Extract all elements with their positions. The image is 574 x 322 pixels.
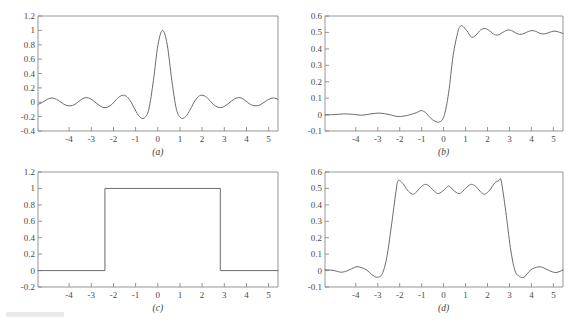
x-tick-label: 4: [244, 134, 249, 144]
y-tick-label: -0.2: [21, 282, 35, 292]
y-tick-label: 1.2: [24, 11, 35, 21]
x-tick-label: -2: [110, 290, 118, 300]
x-tick-label: 5: [551, 290, 556, 300]
x-tick-label: 3: [222, 134, 227, 144]
y-ticks-b: [325, 16, 329, 131]
y-tick-label: 0.3: [311, 60, 323, 70]
y-tick-label: 0.6: [24, 216, 36, 226]
x-tick-label: 5: [266, 134, 271, 144]
x-tick-labels-b: -4 -3 -2 -1 0 1 2 3 4 5: [352, 134, 556, 144]
y-tick-label: 0.2: [311, 233, 322, 243]
x-tick-label: 1: [463, 134, 468, 144]
x-tick-label: 5: [266, 290, 271, 300]
figure-container: -0.4 -0.2 0 0.2 0.4 0.6 0.8 1 1.2 -4 -3 …: [0, 0, 574, 322]
x-tick-label: 3: [507, 134, 512, 144]
x-tick-label: 0: [441, 290, 446, 300]
y-tick-label: 0.1: [311, 93, 322, 103]
plot-panel-a: -0.4 -0.2 0 0.2 0.4 0.6 0.8 1 1.2 -4 -3 …: [0, 0, 287, 161]
y-tick-labels-c: -0.2 0 0.2 0.4 0.6 0.8 1 1.2: [21, 167, 36, 292]
data-curve-b: [325, 26, 563, 123]
panel-caption-c: (c): [153, 303, 164, 314]
y-tick-label: 0.5: [311, 183, 323, 193]
x-tick-label: 1: [178, 290, 183, 300]
plot-svg-a: -0.4 -0.2 0 0.2 0.4 0.6 0.8 1 1.2 -4 -3 …: [0, 0, 287, 161]
y-tick-label: 0.4: [24, 233, 36, 243]
x-tick-label: -4: [352, 290, 360, 300]
axes-b: [325, 16, 563, 131]
plot-panel-b: -0.1 0 0.1 0.2 0.3 0.4 0.5 0.6 -4 -3 -2 …: [287, 0, 574, 161]
x-tick-label: 0: [156, 134, 161, 144]
y-tick-label: 0.6: [24, 54, 36, 64]
x-tick-label: 4: [529, 290, 534, 300]
y-tick-label: 0: [31, 97, 36, 107]
axes-a: [38, 16, 278, 131]
x-tick-label: -4: [65, 134, 73, 144]
y-tick-label: 0.4: [311, 200, 323, 210]
y-tick-label: 0.2: [24, 249, 35, 259]
x-ticks-a: [69, 127, 269, 131]
y-tick-label: 0: [318, 110, 323, 120]
x-tick-label: -1: [418, 290, 426, 300]
y-ticks-c: [38, 172, 42, 287]
plot-panel-d: -0.1 0 0.1 0.2 0.3 0.4 0.5 0.6 -4 -3 -2 …: [287, 161, 574, 322]
y-tick-label: 0.4: [311, 44, 323, 54]
x-tick-label: 0: [441, 134, 446, 144]
y-tick-label: -0.4: [21, 126, 36, 136]
axis-frame-d: [325, 172, 563, 287]
x-tick-label: -2: [110, 134, 118, 144]
x-tick-label: 3: [222, 290, 227, 300]
plot-svg-b: -0.1 0 0.1 0.2 0.3 0.4 0.5 0.6 -4 -3 -2 …: [287, 0, 574, 161]
x-tick-label: 2: [200, 134, 205, 144]
plot-svg-c: -0.2 0 0.2 0.4 0.6 0.8 1 1.2 -4 -3 -2 -1…: [0, 161, 287, 322]
data-curve-a: [38, 30, 278, 118]
y-tick-label: 1: [31, 183, 36, 193]
y-tick-label: 0.2: [24, 83, 35, 93]
panel-caption-b: (b): [438, 147, 449, 158]
y-tick-label: -0.2: [21, 112, 35, 122]
y-tick-labels-d: -0.1 0 0.1 0.2 0.3 0.4 0.5 0.6: [308, 167, 323, 292]
y-tick-label: 0: [318, 266, 323, 276]
x-tick-labels-a: -4 -3 -2 -1 0 1 2 3 4 5: [65, 134, 271, 144]
plot-panel-c: -0.2 0 0.2 0.4 0.6 0.8 1 1.2 -4 -3 -2 -1…: [0, 161, 287, 322]
x-tick-label: 5: [551, 134, 556, 144]
y-tick-label: 1: [31, 25, 36, 35]
x-tick-labels-d: -4 -3 -2 -1 0 1 2 3 4 5: [352, 290, 556, 300]
y-tick-label: 0: [31, 266, 36, 276]
y-tick-label: -0.1: [308, 126, 322, 136]
axis-frame-b: [325, 16, 563, 131]
y-tick-label: 0.3: [311, 216, 323, 226]
axes-c: [38, 172, 278, 287]
x-tick-label: 4: [529, 134, 534, 144]
y-tick-label: 0.1: [311, 249, 322, 259]
y-tick-label: 0.8: [24, 200, 36, 210]
y-tick-label: 0.6: [311, 167, 323, 177]
x-tick-label: -1: [132, 134, 140, 144]
x-tick-label: -1: [418, 134, 426, 144]
y-tick-label: 0.2: [311, 77, 322, 87]
axis-frame-a: [38, 16, 278, 131]
y-tick-labels-a: -0.4 -0.2 0 0.2 0.4 0.6 0.8 1 1.2: [21, 11, 36, 136]
x-tick-label: -2: [396, 134, 404, 144]
x-tick-label: -4: [65, 290, 73, 300]
x-tick-label: 3: [507, 290, 512, 300]
data-curve-c: [38, 188, 278, 270]
panel-caption-a: (a): [152, 147, 163, 158]
x-tick-label: -3: [374, 134, 382, 144]
panel-caption-d: (d): [438, 303, 449, 314]
y-tick-label: 1.2: [24, 167, 35, 177]
y-tick-label: 0.8: [24, 40, 36, 50]
data-curve-d: [325, 179, 563, 278]
x-tick-label: 1: [178, 134, 183, 144]
x-tick-label: 2: [485, 290, 490, 300]
x-tick-labels-c: -4 -3 -2 -1 0 1 2 3 4 5: [65, 290, 271, 300]
x-tick-label: -3: [88, 290, 96, 300]
y-tick-label: 0.5: [311, 27, 323, 37]
y-tick-label: 0.6: [311, 11, 323, 21]
x-tick-label: -1: [132, 290, 140, 300]
y-tick-labels-b: -0.1 0 0.1 0.2 0.3 0.4 0.5 0.6: [308, 11, 323, 136]
x-tick-label: 4: [244, 290, 249, 300]
axis-frame-c: [38, 172, 278, 287]
x-ticks-b: [356, 127, 554, 131]
x-tick-label: -3: [374, 290, 382, 300]
x-tick-label: 2: [485, 134, 490, 144]
